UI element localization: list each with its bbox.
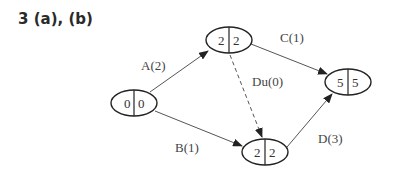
node-top: 2 2 xyxy=(206,27,252,53)
edge-label-b: B(1) xyxy=(175,140,199,155)
node-start-left: 0 xyxy=(124,96,131,111)
node-end: 5 5 xyxy=(325,69,371,95)
node-bottom-left: 2 xyxy=(254,145,261,160)
node-start: 0 0 xyxy=(111,90,157,116)
node-top-left: 2 xyxy=(218,33,225,48)
network-diagram: A(2) B(1) C(1) Du(0) D(3) 0 0 2 2 5 5 2 … xyxy=(0,0,398,175)
edge-label-du: Du(0) xyxy=(252,74,283,89)
node-top-right: 2 xyxy=(233,33,240,48)
edge-label-d: D(3) xyxy=(318,131,343,146)
edge-c xyxy=(251,44,327,74)
edge-label-c: C(1) xyxy=(280,30,304,45)
node-bottom: 2 2 xyxy=(242,139,288,165)
edge-label-a: A(2) xyxy=(141,58,166,73)
edge-du xyxy=(230,55,262,137)
node-end-left: 5 xyxy=(337,75,344,90)
node-start-right: 0 xyxy=(138,96,145,111)
node-bottom-right: 2 xyxy=(269,145,276,160)
node-end-right: 5 xyxy=(352,75,359,90)
